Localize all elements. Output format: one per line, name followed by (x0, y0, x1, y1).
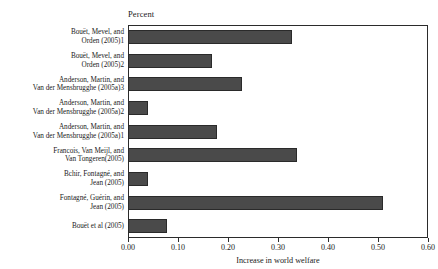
bar (128, 30, 292, 44)
bar-chart-figure: Percent Bouët, Mevel, and Orden (2005)1B… (0, 0, 438, 269)
category-axis-labels: Bouët, Mevel, and Orden (2005)1Bouët, Me… (0, 25, 126, 238)
bar (128, 196, 383, 210)
bar (128, 172, 148, 186)
bar (128, 101, 148, 115)
category-label: Bouët et al (2005) (0, 222, 124, 230)
bar (128, 219, 167, 233)
category-label: Bouët, Mevel, and Orden (2005)2 (0, 52, 124, 69)
x-axis-tick-label: 0.50 (358, 243, 398, 252)
x-axis-tick-label: 0.10 (158, 243, 198, 252)
x-axis-tick-label: 0.00 (108, 243, 148, 252)
category-label: Francois, Van Meijl, and Van Tongeren(20… (0, 147, 124, 164)
x-axis-tick-label: 0.60 (408, 243, 438, 252)
x-axis-tick-label: 0.20 (208, 243, 248, 252)
category-label: Anderson, Martin, and Van der Mensbruggh… (0, 123, 124, 140)
x-axis-tick-label: 0.30 (258, 243, 298, 252)
bar (128, 77, 242, 91)
axis-unit-caption: Percent (128, 9, 154, 19)
x-axis-tick (428, 238, 429, 242)
category-label: Bchir, Fontagné, and Jean (2005) (0, 170, 124, 187)
category-label: Fontagné, Guérin, and Jean (2005) (0, 194, 124, 211)
bar (128, 148, 297, 162)
bar (128, 54, 212, 68)
x-axis-tick (278, 238, 279, 242)
category-label: Anderson, Martin, and Van der Mensbruggh… (0, 76, 124, 93)
cropped-headline (128, 0, 428, 2)
category-label: Anderson, Martin, and Van der Mensbruggh… (0, 99, 124, 116)
x-axis-tick (128, 238, 129, 242)
x-axis-tick-label: 0.40 (308, 243, 348, 252)
bar (128, 125, 217, 139)
x-axis-tick (328, 238, 329, 242)
x-axis-tick (378, 238, 379, 242)
x-axis-tick (178, 238, 179, 242)
category-label: Bouët, Mevel, and Orden (2005)1 (0, 28, 124, 45)
x-axis-tick (228, 238, 229, 242)
x-axis-title: Increase in world welfare (128, 256, 428, 265)
